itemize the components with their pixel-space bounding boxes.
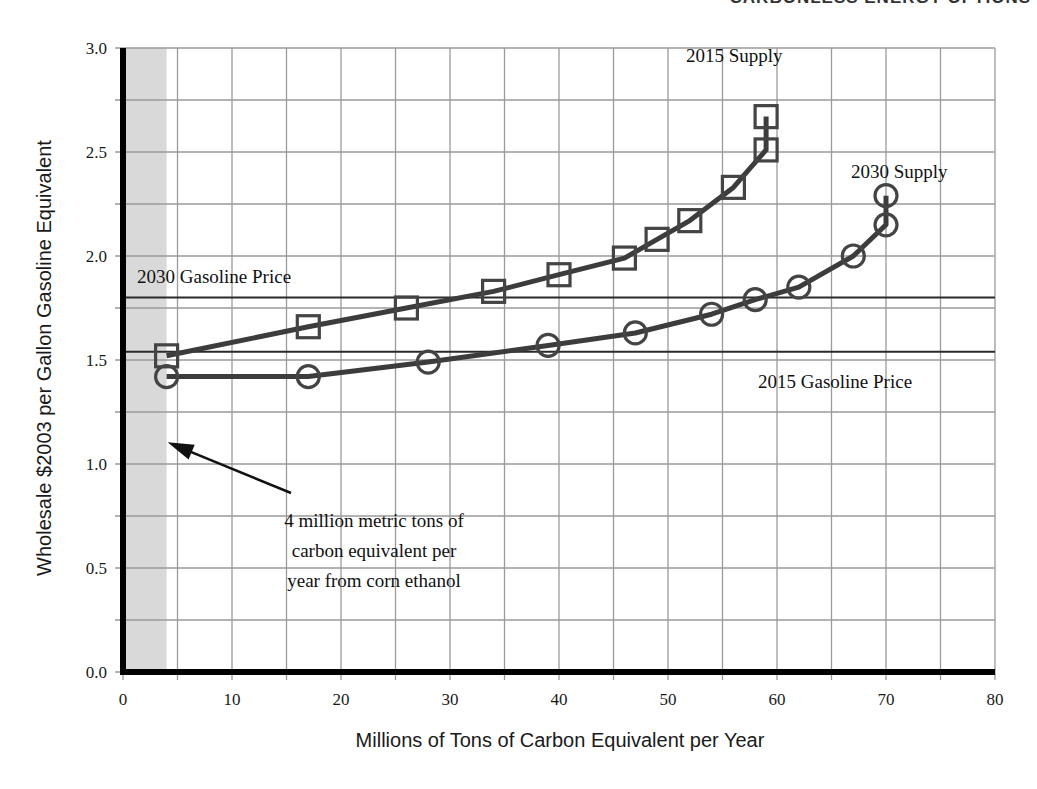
x-tick-label: 0	[119, 690, 128, 709]
grid-lines	[115, 48, 995, 680]
arrow-shaft	[182, 448, 291, 493]
x-tick-label: 20	[333, 690, 350, 709]
axes	[120, 48, 995, 675]
y-tick-label: 2.5	[86, 143, 107, 162]
x-tick-label: 30	[442, 690, 459, 709]
y-axis-ticks: 0.00.51.01.52.02.53.0	[86, 39, 107, 682]
x-tick-label: 70	[878, 690, 895, 709]
y-tick-label: 2.0	[86, 247, 107, 266]
y-axis-title: Wholesale $2003 per Gallon Gasoline Equi…	[33, 140, 55, 576]
x-tick-label: 50	[660, 690, 677, 709]
supply-series	[156, 106, 897, 388]
arrow-head-icon	[168, 442, 195, 459]
x-tick-label: 10	[224, 690, 241, 709]
label-2030-supply: 2030 Supply	[851, 161, 948, 182]
x-tick-label: 60	[769, 690, 786, 709]
y-tick-label: 3.0	[86, 39, 107, 58]
label-2030-gasoline-price: 2030 Gasoline Price	[137, 266, 291, 287]
x-tick-label: 40	[551, 690, 568, 709]
annotation-text-line: carbon equivalent per	[292, 540, 457, 561]
supply-chart: 01020304050607080 0.00.51.01.52.02.53.0 …	[0, 0, 1037, 789]
label-2015-gasoline-price: 2015 Gasoline Price	[758, 371, 912, 392]
x-axis-title: Millions of Tons of Carbon Equivalent pe…	[356, 729, 765, 751]
y-tick-label: 1.5	[86, 351, 107, 370]
annotation-text-line: 4 million metric tons of	[284, 510, 464, 531]
x-tick-label: 80	[987, 690, 1004, 709]
y-tick-label: 1.0	[86, 455, 107, 474]
y-tick-label: 0.5	[86, 559, 107, 578]
label-2015-supply: 2015 Supply	[686, 45, 783, 66]
y-tick-label: 0.0	[86, 663, 107, 682]
x-axis-ticks: 01020304050607080	[119, 690, 1004, 709]
annotation-text-line: year from corn ethanol	[287, 570, 461, 591]
